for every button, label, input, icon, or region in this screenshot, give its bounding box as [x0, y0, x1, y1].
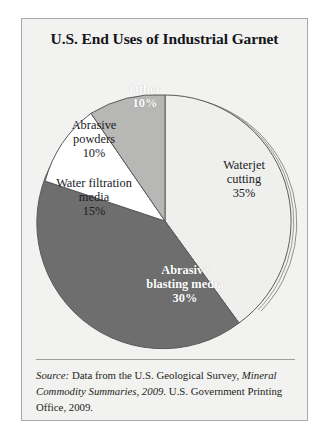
footer-divider	[36, 359, 295, 360]
figure-title: U.S. End Uses of Industrial Garnet	[22, 30, 307, 48]
source-label: Source:	[36, 369, 69, 381]
source-text-before: Data from the U.S. Geological Survey,	[69, 369, 242, 381]
pie-chart: Waterjet cutting 35% Abrasive blasting m…	[22, 57, 309, 357]
source-note: Source: Data from the U.S. Geological Su…	[36, 368, 298, 415]
pie-chart-svg	[22, 57, 309, 357]
figure-container: U.S. End Uses of Industrial Garnet Water…	[21, 18, 308, 421]
